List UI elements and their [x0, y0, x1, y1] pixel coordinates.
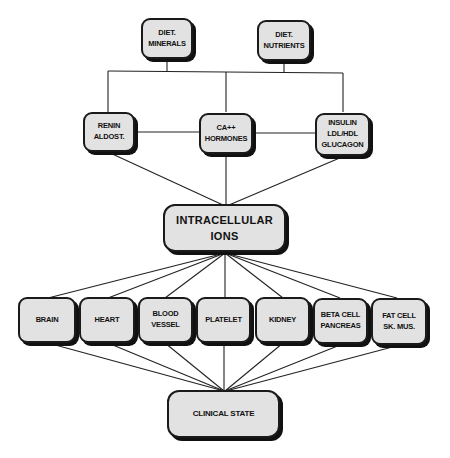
node-label: GLUCAGON [321, 140, 363, 151]
node-renin-aldost: RENIN ALDOST. [83, 112, 135, 152]
node-heart: HEART [79, 297, 135, 343]
node-label: RENIN [98, 121, 120, 132]
node-ca-hormones: CA++ HORMONES [199, 113, 253, 154]
node-label: FAT CELL [382, 311, 416, 322]
node-diet-minerals: DIET. MINERALS [141, 18, 193, 59]
node-clinical-state: CLINICAL STATE [167, 390, 280, 438]
node-label: BRAIN [36, 315, 59, 326]
node-label: KIDNEY [269, 315, 296, 326]
node-label: BETA CELL [321, 310, 360, 321]
node-beta-cell-pancreas: BETA CELL PANCREAS [313, 298, 368, 344]
node-label: PLATELET [205, 315, 242, 326]
node-label: CA++ [217, 123, 236, 134]
node-blood-vessel: BLOOD VESSEL [138, 297, 193, 343]
node-label: BLOOD [152, 309, 178, 320]
node-label: LDL/HDL [327, 129, 358, 140]
node-label: INSULIN [328, 118, 357, 129]
node-label: DIET. [158, 28, 175, 39]
node-label: DIET. [275, 30, 292, 41]
node-label: CLINICAL STATE [193, 408, 255, 420]
node-label: ALDOST. [94, 132, 125, 143]
node-label: INTRACELLULAR [176, 212, 273, 229]
node-label: PANCREAS [321, 321, 361, 332]
node-label: SK. MUS. [383, 322, 415, 333]
node-fat-cell-sk-mus: FAT CELL SK. MUS. [371, 298, 427, 345]
node-label: HORMONES [205, 134, 248, 145]
node-brain: BRAIN [18, 297, 76, 343]
node-label: MINERALS [148, 39, 186, 50]
node-kidney: KIDNEY [255, 297, 310, 343]
node-label: NUTRIENTS [263, 41, 304, 52]
node-diet-nutrients: DIET. NUTRIENTS [257, 20, 311, 61]
node-label: HEART [95, 315, 120, 326]
node-intracellular-ions: INTRACELLULAR IONS [163, 204, 286, 252]
node-label: IONS [210, 228, 238, 245]
node-label: VESSEL [151, 320, 179, 331]
node-platelet: PLATELET [196, 297, 251, 343]
node-insulin-ldl-glucagon: INSULIN LDL/HDL GLUCAGON [315, 113, 370, 156]
